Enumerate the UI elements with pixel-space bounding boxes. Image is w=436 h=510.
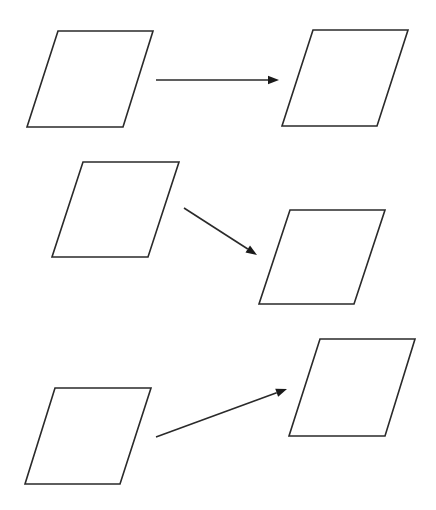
diagram-canvas <box>0 0 436 510</box>
para-1-parallelogram <box>27 31 153 127</box>
arrows-layer <box>156 76 287 437</box>
arrow-3 <box>156 389 287 437</box>
para-3-parallelogram <box>52 162 179 257</box>
para-2-parallelogram <box>282 30 408 126</box>
shapes-layer <box>25 30 415 484</box>
arrow-2-line <box>184 208 248 249</box>
arrowhead-icon <box>268 76 279 84</box>
arrow-1 <box>156 76 279 84</box>
para-5-parallelogram <box>25 388 151 484</box>
arrowhead-icon <box>245 246 257 255</box>
para-4-parallelogram <box>259 210 385 304</box>
arrow-2 <box>184 208 257 255</box>
arrowhead-icon <box>275 389 287 397</box>
arrow-3-line <box>156 393 277 437</box>
para-6-parallelogram <box>289 339 415 436</box>
